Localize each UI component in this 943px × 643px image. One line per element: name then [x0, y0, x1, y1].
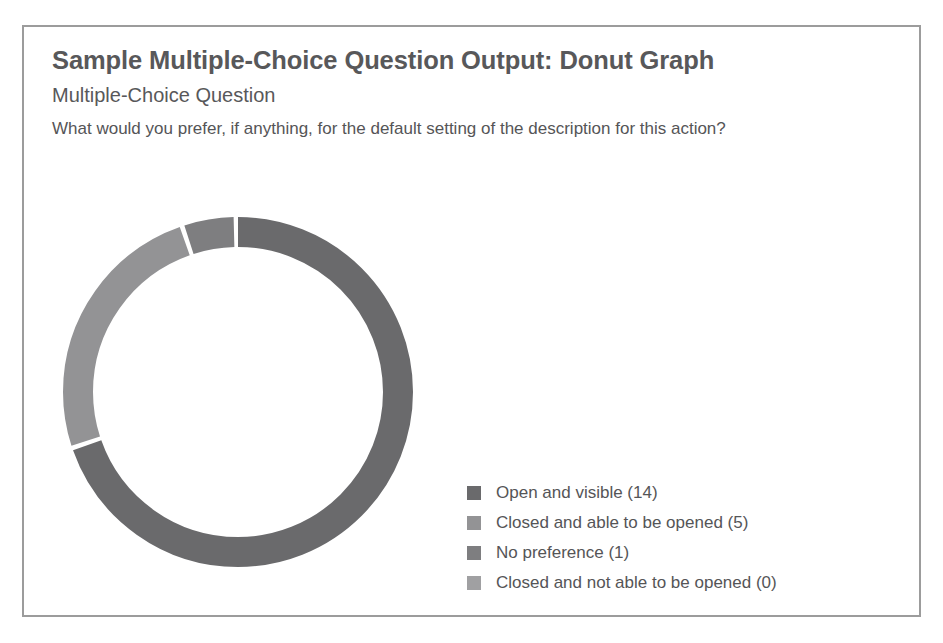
legend-item[interactable]: Open and visible (14): [467, 480, 897, 506]
card-content: Sample Multiple-Choice Question Output: …: [24, 27, 919, 615]
legend-item[interactable]: Closed and not able to be opened (0): [467, 570, 897, 596]
legend-item[interactable]: Closed and able to be opened (5): [467, 510, 897, 536]
legend-label: No preference (1): [496, 543, 629, 563]
legend-label: Closed and not able to be opened (0): [496, 573, 777, 593]
chart-area: Open and visible (14) Closed and able to…: [24, 190, 923, 615]
page-title: Sample Multiple-Choice Question Output: …: [52, 45, 893, 76]
donut-chart-svg: [38, 192, 438, 592]
legend-swatch-open-and-visible: [467, 486, 481, 500]
question-type-label: Multiple-Choice Question: [52, 83, 893, 108]
legend-label: Closed and able to be opened (5): [496, 513, 748, 533]
legend-item[interactable]: No preference (1): [467, 540, 897, 566]
legend-swatch-closed-able-to-be-opened: [467, 516, 481, 530]
legend-label: Open and visible (14): [496, 483, 658, 503]
legend-swatch-closed-not-able-to-be-opened: [467, 576, 481, 590]
screenshot-root: Sample Multiple-Choice Question Output: …: [0, 0, 943, 643]
donut-chart: [38, 192, 438, 592]
question-text: What would you prefer, if anything, for …: [52, 117, 732, 141]
question-result-card: Sample Multiple-Choice Question Output: …: [22, 25, 921, 617]
legend-swatch-no-preference: [467, 546, 481, 560]
chart-legend: Open and visible (14) Closed and able to…: [467, 480, 897, 600]
donut-segments: [78, 232, 398, 552]
